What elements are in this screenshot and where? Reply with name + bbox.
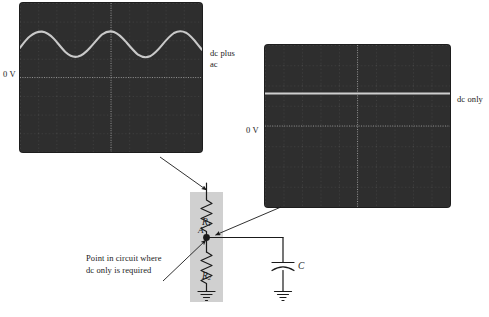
r2-subscript: 2 [208, 274, 211, 281]
circuit-and-arrows-layer [0, 0, 489, 317]
annotation-line1: Point in circuit where [86, 253, 162, 263]
ground-symbol-capacitor [275, 292, 292, 301]
r1-subscript: 1 [208, 220, 211, 227]
annotation-line2: dc only is required [86, 265, 151, 275]
leader-arrow-to-r1 [160, 157, 207, 190]
resistor-r2-label: R2 [192, 261, 211, 293]
voltage-divider-circuit [198, 183, 294, 301]
capacitor-c-symbol [272, 263, 294, 271]
figure-root: 0 V dc plus ac 0 V dc only [0, 0, 489, 317]
capacitor-c-label: C [298, 261, 304, 271]
node-a-label: A [198, 225, 204, 235]
leader-arrow-to-node-a [216, 207, 282, 235]
